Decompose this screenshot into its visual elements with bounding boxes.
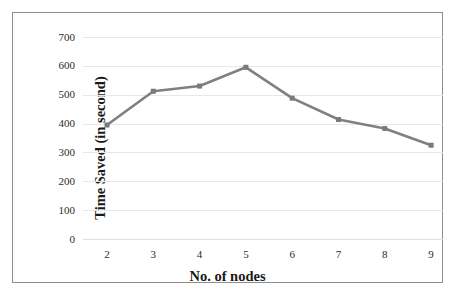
data-point-marker [151,89,156,94]
data-point-marker [336,117,341,122]
data-point-marker [243,65,248,70]
x-axis-title: No. of nodes [13,268,442,285]
series-line [107,67,431,145]
y-axis-tick-label: 0 [70,234,76,245]
y-axis-tick-label: 700 [59,32,76,43]
data-point-marker [290,96,295,101]
y-axis-tick-label: 400 [59,118,76,129]
chart-screenshot: Time Saved (in second) No. of nodes 0100… [0,0,457,297]
data-point-marker [382,126,387,131]
chart-frame: Time Saved (in second) No. of nodes 0100… [12,12,443,283]
gridline [83,239,443,240]
data-point-marker [105,123,110,128]
y-axis-tick-label: 100 [59,205,76,216]
y-axis-tick-label: 200 [59,176,76,187]
x-axis-tick-label: 6 [289,249,295,260]
x-axis-tick-label: 4 [197,249,203,260]
data-point-marker [197,84,202,89]
x-axis-tick-label: 2 [104,249,110,260]
data-point-marker [429,143,434,148]
x-axis-tick-label: 5 [243,249,249,260]
x-axis-tick-label: 8 [382,249,388,260]
x-axis-tick-label: 7 [336,249,342,260]
y-axis-tick-label: 600 [59,60,76,71]
line-series [83,37,443,239]
y-axis-tick-label: 300 [59,147,76,158]
x-axis-tick-label: 3 [151,249,157,260]
y-axis-tick-label: 500 [59,89,76,100]
x-axis-tick-label: 9 [428,249,434,260]
plot-area: 0100200300400500600700 23456789 [83,37,443,239]
